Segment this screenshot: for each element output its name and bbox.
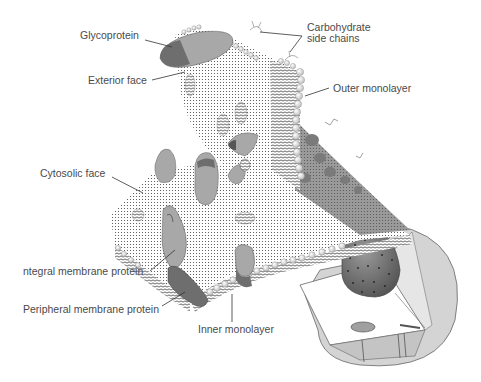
label-integral-membrane-protein: ntegral membrane protein: [23, 266, 143, 277]
carbohydrate-chain-2: [285, 51, 298, 60]
label-glycoprotein: Glycoprotein: [80, 30, 139, 41]
label-inner-monolayer: Inner monolayer: [198, 324, 274, 335]
carbohydrate-chain-1: [250, 21, 262, 32]
label-exterior-face: Exterior face: [88, 75, 147, 86]
label-carbohydrate-line2: side chains: [307, 33, 360, 44]
label-peripheral-membrane-protein: Peripheral membrane protein: [23, 304, 159, 315]
label-outer-monolayer: Outer monolayer: [333, 83, 411, 94]
label-cytosolic-face: Cytosolic face: [40, 168, 105, 179]
